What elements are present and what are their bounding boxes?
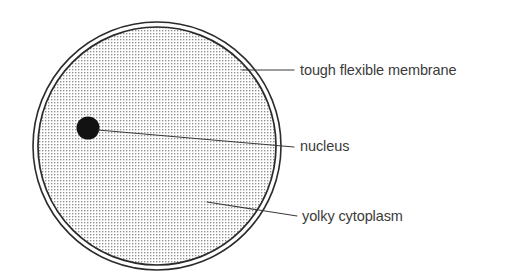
diagram-canvas: tough flexible membrane nucleus yolky cy… bbox=[0, 0, 527, 275]
yolky-cytoplasm-fill bbox=[38, 27, 276, 265]
nucleus-shape bbox=[77, 117, 100, 140]
label-tough-flexible-membrane: tough flexible membrane bbox=[300, 62, 457, 78]
label-nucleus: nucleus bbox=[300, 138, 349, 154]
label-yolky-cytoplasm: yolky cytoplasm bbox=[302, 208, 403, 224]
cell-diagram-figure: tough flexible membrane nucleus yolky cy… bbox=[0, 0, 527, 275]
